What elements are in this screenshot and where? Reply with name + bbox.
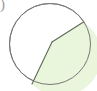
geometry-figure: ) bbox=[0, 0, 97, 91]
circle-diagram-svg bbox=[0, 0, 97, 91]
